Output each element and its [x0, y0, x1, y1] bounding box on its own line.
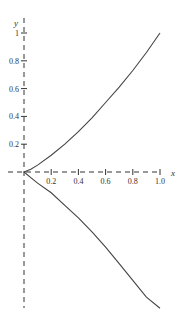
y-tick-label: 0.2 — [9, 140, 19, 149]
y-axis-label: y — [13, 18, 18, 28]
x-tick-label: 0.4 — [73, 177, 83, 186]
y-tick-label: 0.4 — [9, 112, 19, 121]
y-tick-label: 1 — [15, 29, 19, 38]
y-tick-label: 0.6 — [9, 85, 19, 94]
x-axis-label: x — [170, 168, 175, 178]
chart: 0.20.40.60.81.00.20.40.60.81 x y — [0, 0, 185, 325]
x-tick-label: 0.2 — [46, 177, 56, 186]
upper-curve — [24, 33, 160, 172]
x-tick-label: 0.8 — [128, 177, 138, 186]
x-tick-label: 1.0 — [155, 177, 165, 186]
lower-curve — [24, 172, 160, 308]
ticks: 0.20.40.60.81.00.20.40.60.81 — [9, 29, 165, 186]
x-tick-label: 0.6 — [101, 177, 111, 186]
y-tick-label: 0.8 — [9, 57, 19, 66]
axes — [8, 18, 160, 308]
series — [24, 33, 160, 308]
